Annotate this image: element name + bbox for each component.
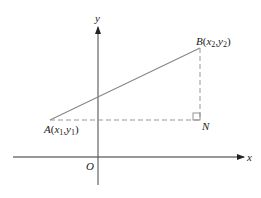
right-angle-marker	[193, 113, 200, 120]
coordinate-diagram: y x O B(x2,y2) A(x1,y1) N	[0, 0, 261, 198]
segment-ab	[50, 48, 200, 120]
y-axis-label: y	[94, 12, 100, 24]
point-b-label: B(x2,y2)	[196, 35, 231, 49]
point-n-label: N	[201, 120, 210, 132]
point-a-label: A(x1,y1)	[43, 123, 79, 137]
origin-label: O	[86, 160, 94, 172]
x-axis-label: x	[246, 151, 252, 163]
